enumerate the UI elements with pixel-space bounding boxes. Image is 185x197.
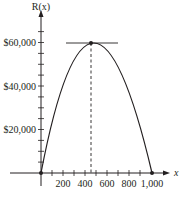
y-tick-label-40000: $40,000 (4, 81, 37, 92)
y-tick-label-60000: $60,000 (4, 37, 37, 48)
revenue-chart: R(x) x $60,000 $40,000 $20,000 200 400 6… (0, 0, 185, 197)
x-tick-label-400: 400 (78, 178, 93, 189)
x-tick-label-600: 600 (100, 178, 115, 189)
x-tick-label-800: 800 (122, 178, 137, 189)
x-tick-label-200: 200 (56, 178, 71, 189)
vertex-point (89, 41, 93, 45)
root-point (150, 171, 154, 175)
y-tick-label-20000: $20,000 (4, 124, 37, 135)
y-axis-label: R(x) (32, 1, 50, 13)
origin-point (39, 171, 43, 175)
revenue-curve (41, 43, 152, 173)
x-axis-label: x (173, 167, 179, 178)
x-axis-arrow-icon (163, 171, 170, 176)
x-tick-label-1000: 1,000 (141, 178, 164, 189)
